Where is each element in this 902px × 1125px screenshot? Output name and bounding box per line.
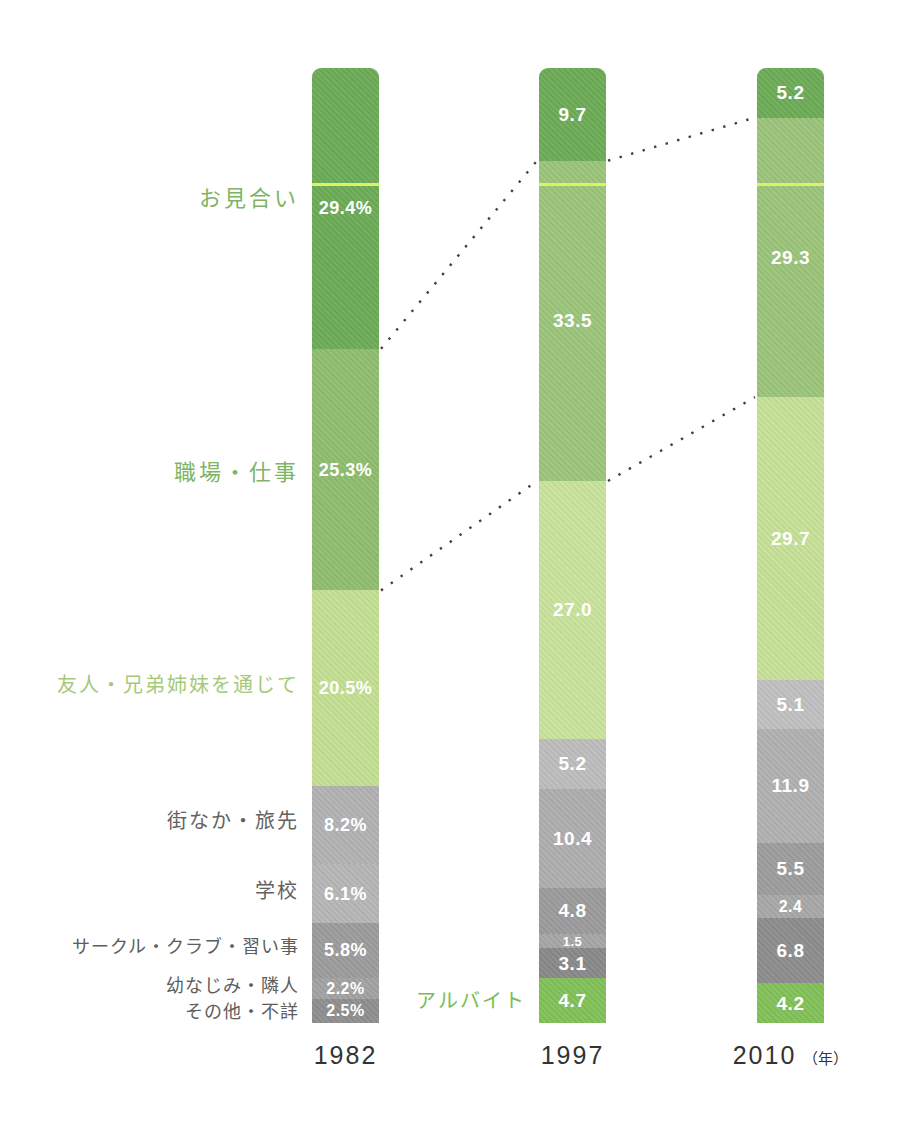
segment-part-time-job: 4.7 [539,978,606,1023]
bar-1997: 9.733.527.05.210.44.81.53.14.7 [539,68,606,1023]
segment-value: 33.5 [553,311,592,330]
segment-value: 6.8 [777,941,805,960]
segment-friends-siblings: 27.0 [539,481,606,739]
year-text: 1982 [314,1041,378,1069]
segment-circle-club-lessons: 4.8 [539,888,606,934]
segment-value: 29.7 [771,529,810,548]
year-label-1982: 1982 [314,1041,378,1070]
segment-value: 1.5 [563,935,583,948]
year-text: 1997 [541,1041,605,1069]
segment-value: 6.1% [324,885,367,903]
highlight-marker-line [539,183,606,186]
segment-workplace-work: 25.3% [312,349,379,591]
category-label-town-travel: 街なか・旅先 [167,805,299,834]
segment-value: 4.2 [777,994,805,1013]
highlight-marker-line [312,183,379,186]
segment-workplace-work: 29.3 [757,118,824,398]
year-label-1997: 1997 [541,1041,605,1070]
segment-friends-siblings: 29.7 [757,397,824,680]
segment-value: 3.1 [559,954,587,973]
connector-line [608,118,755,161]
highlight-marker-line [757,183,824,186]
segment-town-travel: 5.1 [757,680,824,729]
segment-value: 9.7 [559,105,587,124]
segment-part-time-job: 4.2 [757,983,824,1023]
segment-value: 29.4% [319,199,373,217]
bar-2010: 5.229.329.75.111.95.52.46.84.2 [757,68,824,1023]
segment-value: 20.5% [319,679,373,697]
segment-value: 2.2% [326,981,364,997]
segment-value: 5.8% [324,941,367,959]
segment-school: 10.4 [539,789,606,888]
segment-value: 2.5% [326,1003,364,1019]
segment-school: 11.9 [757,729,824,843]
segment-value: 5.2 [777,83,805,102]
category-label-omiai: お見合い [199,180,299,212]
segment-town-travel: 8.2% [312,786,379,864]
category-label-other-unknown: その他・不詳 [185,997,299,1023]
segment-other-unknown: 2.5% [312,999,379,1023]
segment-friends-siblings: 20.5% [312,590,379,786]
segment-value: 4.8 [559,901,587,920]
category-label-friends-siblings: 友人・兄弟姉妹を通じて [57,669,299,698]
category-label-school: 学校 [255,874,299,903]
connector-line [608,397,755,481]
segment-value: 25.3% [319,461,373,479]
axis-unit-label: （年） [803,1050,848,1067]
segment-other-unknown: 3.1 [539,948,606,978]
segment-value: 27.0 [553,600,592,619]
segment-circle-club-lessons: 5.8% [312,923,379,978]
segment-workplace-work: 33.5 [539,161,606,481]
segment-value: 11.9 [772,776,810,795]
connector-line [381,161,537,349]
segment-value: 10.4 [553,829,592,848]
segment-childhood-friend-neighbor: 1.5 [539,934,606,948]
chart-canvas: 29.4%25.3%20.5%8.2%6.1%5.8%2.2%2.5%19829… [0,0,902,1125]
connector-line [381,481,537,590]
segment-school: 6.1% [312,864,379,922]
segment-childhood-friend-neighbor: 2.2% [312,978,379,999]
year-text: 2010 [733,1041,797,1069]
segment-value: 5.5 [777,859,805,878]
category-label-part-time-job: アルバイト [416,984,526,1013]
segment-other-unknown: 6.8 [757,918,824,983]
segment-value: 29.3 [771,248,810,267]
category-label-circle-club-lessons: サークル・クラブ・習い事 [72,932,299,958]
year-label-2010: 2010（年） [733,1041,849,1070]
bar-1982: 29.4%25.3%20.5%8.2%6.1%5.8%2.2%2.5% [312,68,379,1023]
segment-value: 5.1 [777,695,805,714]
segment-value: 8.2% [324,816,367,834]
segment-omiai: 5.2 [757,68,824,118]
segment-value: 5.2 [559,754,587,773]
segment-omiai: 29.4% [312,68,379,349]
segment-circle-club-lessons: 5.5 [757,843,824,896]
segment-value: 2.4 [779,899,803,915]
category-label-childhood-friend-neighbor: 幼なじみ・隣人 [166,971,299,997]
segment-childhood-friend-neighbor: 2.4 [757,895,824,918]
segment-value: 4.7 [559,991,587,1010]
category-label-workplace-work: 職場・仕事 [174,454,299,486]
segment-town-travel: 5.2 [539,739,606,789]
segment-omiai: 9.7 [539,68,606,161]
